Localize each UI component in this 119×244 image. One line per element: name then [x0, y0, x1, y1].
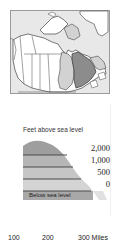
below-sea-level-label: Below sea level [29, 192, 71, 198]
canada-locator-svg [10, 10, 110, 94]
ontario-shape [58, 52, 74, 90]
locator-map [10, 10, 110, 94]
elevation-label-1000: 1,000 [80, 155, 110, 165]
scale-tick-300-miles: 300 Miles [78, 234, 108, 241]
legend-title: Feet above sea level [23, 126, 83, 133]
scale-tick-200: 200 [42, 234, 54, 241]
band-edge [93, 191, 107, 200]
elevation-label-0: 0 [80, 179, 110, 189]
elevation-label-2000: 2,000 [80, 143, 110, 153]
elevation-legend: 2,000 1,000 500 0 [23, 140, 113, 200]
scale-tick-100: 100 [8, 234, 20, 241]
elevation-label-500: 500 [80, 167, 110, 177]
